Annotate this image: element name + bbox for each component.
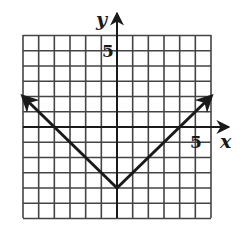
x-axis-label: x	[219, 130, 232, 152]
y-tick-label-5: 5	[102, 41, 114, 61]
y-axis-label: y	[95, 8, 109, 30]
coordinate-graph: y 5 5 x	[0, 0, 245, 229]
x-tick-label-5: 5	[190, 132, 202, 152]
